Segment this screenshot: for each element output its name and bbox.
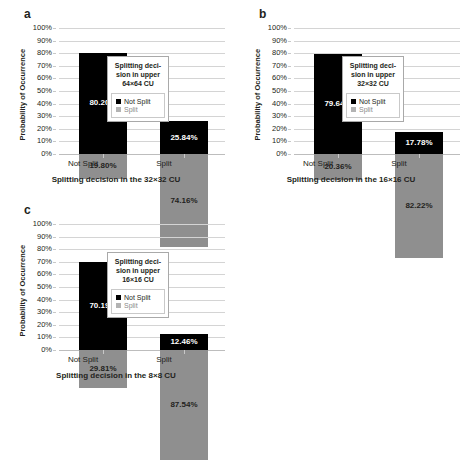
legend-title-a: Splitting deci- sion in upper 64×64 CU	[111, 61, 165, 89]
x-axis-tick-mark	[184, 154, 185, 158]
y-axis-tick-label: 40%	[272, 100, 287, 108]
legend-label-split-c: Split	[124, 302, 138, 309]
y-axis-tick-label: 70%	[37, 258, 52, 266]
y-axis-tick-label: 60%	[37, 75, 52, 83]
y-axis-tick-mark	[288, 129, 291, 130]
y-axis-tick-label: 20%	[37, 125, 52, 133]
legend-label-split-a: Split	[124, 106, 138, 113]
y-axis-tick-mark	[53, 350, 56, 351]
y-axis-tick-mark	[288, 91, 291, 92]
y-axis-tick-mark	[288, 78, 291, 79]
y-axis-tick-label: 60%	[37, 271, 52, 279]
panel-letter-a: a	[24, 8, 31, 20]
bar-value-label-a-2-notsplit: 25.84%	[160, 134, 208, 142]
x-axis-tick-mark	[338, 154, 339, 158]
y-axis-tick-label: 50%	[37, 87, 52, 95]
bar-segment-split-b-2: 82.22%	[395, 154, 443, 258]
gridline	[59, 28, 225, 29]
y-axis-tick-mark	[53, 287, 56, 288]
legend-c: Splitting deci- sion in upper 16×16 CU N…	[107, 252, 169, 318]
x-axis-tick-mark	[103, 154, 104, 158]
y-axis-tick-mark	[53, 28, 56, 29]
gridline	[294, 41, 460, 42]
panel-a: a 100%90%80%70%60%50%40%30%20%10%0% Prob…	[2, 0, 230, 196]
y-axis-tick-label: 90%	[37, 233, 52, 241]
y-axis-tick-label: 100%	[268, 24, 287, 32]
x-axis-title-a: Splitting decision in the 32×32 CU	[2, 176, 230, 184]
x-axis-title-c: Splitting decision in the 8×8 CU	[2, 372, 230, 380]
y-axis-tick-mark	[53, 116, 56, 117]
y-axis-title-a: Probability of Occurrence	[19, 32, 27, 158]
y-axis-tick-mark	[53, 104, 56, 105]
legend-swatch-icon-gray-a	[116, 107, 121, 112]
legend-title-line-1: Splitting deci-	[111, 61, 165, 70]
y-axis-tick-label: 70%	[37, 62, 52, 70]
y-axis-tick-mark	[53, 141, 56, 142]
bar-value-label-c-2-notsplit: 12.46%	[160, 338, 208, 346]
legend-title-line-3: 32×32 CU	[346, 79, 400, 88]
y-axis-tick-label: 0%	[41, 346, 52, 354]
legend-title-line-3: 64×64 CU	[111, 79, 165, 88]
y-axis-tick-mark	[288, 154, 291, 155]
legend-swatch-icon-black-b	[351, 99, 356, 104]
y-axis-tick-label: 100%	[33, 24, 52, 32]
legend-a: Splitting deci- sion in upper 64×64 CU N…	[107, 56, 169, 122]
legend-entries-b: Not Split Split	[346, 93, 400, 118]
y-axis-ticks-c: 100%90%80%70%60%50%40%30%20%10%0%	[2, 224, 56, 350]
y-axis-tick-mark	[53, 249, 56, 250]
y-axis-tick-mark	[288, 28, 291, 29]
x-category-label-b-1: Not Split	[273, 160, 363, 168]
y-axis-tick-mark	[288, 104, 291, 105]
bar-segment-split-c-2: 87.54%	[160, 350, 208, 460]
y-axis-tick-mark	[53, 224, 56, 225]
y-axis-tick-label: 30%	[37, 112, 52, 120]
legend-title-line-2: sion in upper	[111, 70, 165, 79]
panel-letter-b: b	[259, 8, 266, 20]
bar-segment-notsplit-b-2: 17.78%	[395, 132, 443, 154]
legend-item-split-b: Split	[351, 106, 395, 113]
y-axis-title-b: Probability of Occurrence	[254, 32, 262, 158]
y-axis-tick-mark	[53, 41, 56, 42]
legend-title-c: Splitting deci- sion in upper 16×16 CU	[111, 257, 165, 285]
y-axis-tick-label: 50%	[272, 87, 287, 95]
y-axis-tick-label: 50%	[37, 283, 52, 291]
y-axis-tick-label: 0%	[276, 150, 287, 158]
bar-segment-notsplit-a-2: 25.84%	[160, 121, 208, 154]
legend-item-not-split-b: Not Split	[351, 98, 395, 105]
legend-label-not-split-a: Not Split	[124, 98, 150, 105]
legend-title-b: Splitting deci- sion in upper 32×32 CU	[346, 61, 400, 89]
y-axis-tick-label: 40%	[37, 100, 52, 108]
y-axis-tick-label: 30%	[272, 112, 287, 120]
legend-label-split-b: Split	[359, 106, 373, 113]
y-axis-tick-mark	[53, 325, 56, 326]
gridline	[59, 224, 225, 225]
bar-value-label-b-2-split: 82.22%	[395, 202, 443, 210]
y-axis-tick-label: 70%	[272, 62, 287, 70]
legend-label-not-split-c: Not Split	[124, 294, 150, 301]
legend-title-line-1: Splitting deci-	[111, 257, 165, 266]
legend-item-split-c: Split	[116, 302, 160, 309]
y-axis-tick-label: 90%	[37, 37, 52, 45]
x-axis-tick-mark	[184, 350, 185, 354]
y-axis-ticks-a: 100%90%80%70%60%50%40%30%20%10%0%	[2, 28, 56, 154]
y-axis-tick-mark	[53, 78, 56, 79]
legend-entries-a: Not Split Split	[111, 93, 165, 118]
y-axis-tick-label: 40%	[37, 296, 52, 304]
y-axis-tick-label: 80%	[37, 49, 52, 57]
x-axis-tick-mark	[103, 350, 104, 354]
y-axis-tick-label: 10%	[272, 138, 287, 146]
x-axis-title-b: Splitting decision in the 16×16 CU	[237, 176, 465, 184]
y-axis-tick-label: 0%	[41, 150, 52, 158]
y-axis-tick-mark	[53, 274, 56, 275]
gridline	[59, 249, 225, 250]
y-axis-tick-mark	[53, 300, 56, 301]
legend-title-line-2: sion in upper	[346, 70, 400, 79]
x-category-label-a-1: Not Split	[38, 160, 128, 168]
gridline	[294, 28, 460, 29]
legend-swatch-icon-gray-b	[351, 107, 356, 112]
y-axis-tick-label: 20%	[272, 125, 287, 133]
y-axis-tick-mark	[288, 41, 291, 42]
y-axis-tick-mark	[53, 237, 56, 238]
y-axis-tick-mark	[288, 53, 291, 54]
legend-item-not-split-c: Not Split	[116, 294, 160, 301]
